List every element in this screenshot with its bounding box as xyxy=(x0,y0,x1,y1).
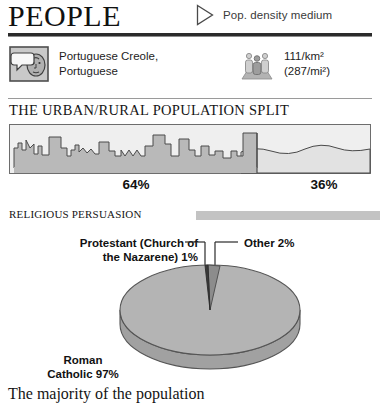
triangle-right-icon xyxy=(196,4,214,26)
page-header: PEOPLE Pop. density medium xyxy=(0,0,380,38)
body-paragraph: The majority of the population xyxy=(8,385,204,403)
fact-row: Portuguese Creole, Portuguese 111/km² (2… xyxy=(0,44,380,96)
urban-rural-chart xyxy=(9,124,371,174)
fact-row-divider xyxy=(8,98,372,99)
header-divider xyxy=(8,33,372,36)
language-fact: Portuguese Creole, Portuguese xyxy=(9,46,158,82)
religion-pie-svg xyxy=(110,232,310,382)
urban-rural-svg xyxy=(9,124,371,174)
speech-face-icon xyxy=(9,46,49,82)
religion-heading: RELIGIOUS PERSUASION xyxy=(9,208,142,220)
urban-percent-label: 64% xyxy=(104,177,168,192)
religion-heading-bar xyxy=(196,211,380,220)
density-fact: 111/km² (287/mi²) xyxy=(238,46,330,82)
language-label: Portuguese Creole, Portuguese xyxy=(59,49,158,79)
three-people-icon xyxy=(238,46,276,82)
religion-pie-chart xyxy=(110,232,310,382)
urban-rural-heading: THE URBAN/RURAL POPULATION SPLIT xyxy=(9,102,289,119)
pop-density-tag: Pop. density medium xyxy=(196,4,332,26)
density-label: 111/km² (287/mi²) xyxy=(284,49,330,79)
people-infographic-page: PEOPLE Pop. density medium Portuguese Cr… xyxy=(0,0,380,405)
religion-callout-catholic: Roman Catholic 97% xyxy=(28,353,138,381)
pop-density-tag-label: Pop. density medium xyxy=(223,9,332,21)
rural-percent-label: 36% xyxy=(292,177,356,192)
page-title: PEOPLE xyxy=(8,0,121,33)
